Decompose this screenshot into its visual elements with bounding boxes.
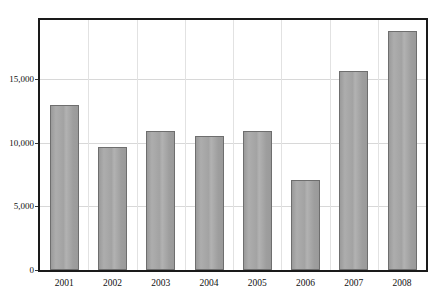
y-axis-tick-label: 10,000 — [0, 138, 34, 148]
gridline-vertical — [185, 20, 186, 270]
bar-chart: 05,00010,00015,000 200120022003200420052… — [0, 0, 442, 300]
bar — [291, 180, 320, 270]
x-axis-tick-label: 2005 — [248, 278, 267, 289]
x-axis-tick-label: 2003 — [151, 278, 170, 289]
x-axis-tick-label: 2006 — [296, 278, 315, 289]
x-axis-tick-label: 2008 — [392, 278, 411, 289]
bar — [98, 147, 127, 270]
x-axis-tick-label: 2004 — [199, 278, 218, 289]
gridline-vertical — [330, 20, 331, 270]
bar — [146, 131, 175, 270]
y-axis-tick-label: 15,000 — [0, 74, 34, 84]
bar — [195, 136, 224, 270]
bar — [243, 131, 272, 270]
gridline-vertical — [233, 20, 234, 270]
gridline-vertical — [137, 20, 138, 270]
bar — [339, 71, 368, 270]
y-axis-label-group: 05,00010,00015,000 — [0, 0, 34, 300]
bar — [388, 31, 417, 270]
plot-area — [38, 18, 428, 272]
gridline-vertical — [281, 20, 282, 270]
x-axis-tick-label: 2002 — [103, 278, 122, 289]
x-axis-tick-label: 2007 — [344, 278, 363, 289]
gridline-vertical — [378, 20, 379, 270]
gridline-vertical — [88, 20, 89, 270]
y-axis-tick-label: 5,000 — [0, 201, 34, 211]
y-axis-tick-label: 0 — [0, 265, 34, 275]
x-axis-tick-label: 2001 — [55, 278, 74, 289]
bar — [50, 105, 79, 270]
